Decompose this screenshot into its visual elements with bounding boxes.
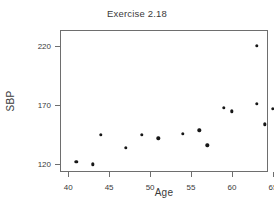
x-axis-tick-label: 50	[146, 183, 155, 192]
scatter-plot-figure: Exercise 2.18 SBP Age 120170220404550556…	[0, 0, 274, 211]
x-axis-tick-label: 60	[228, 183, 237, 192]
y-axis-tick-mark	[55, 46, 60, 47]
x-axis-tick-label: 40	[64, 183, 73, 192]
x-axis-tick-mark	[68, 172, 69, 177]
y-axis-tick-mark	[55, 164, 60, 165]
x-axis-tick-mark	[109, 172, 110, 177]
x-axis-tick-mark	[150, 172, 151, 177]
y-axis-tick-label: 170	[23, 101, 51, 110]
x-axis-tick-mark	[191, 172, 192, 177]
chart-title: Exercise 2.18	[0, 8, 274, 19]
y-axis-tick-label: 220	[23, 42, 51, 51]
x-axis-tick-label: 45	[105, 183, 114, 192]
y-axis-tick-mark	[55, 105, 60, 106]
y-axis-label: SBP	[5, 91, 16, 112]
x-axis-tick-label: 55	[187, 183, 196, 192]
y-axis-tick-label: 120	[23, 160, 51, 169]
data-point	[271, 107, 274, 110]
plot-area	[60, 30, 268, 172]
x-axis-label: Age	[155, 187, 174, 198]
x-axis-tick-label: 65	[268, 183, 274, 192]
x-axis-tick-mark	[273, 172, 274, 177]
x-axis-tick-mark	[232, 172, 233, 177]
